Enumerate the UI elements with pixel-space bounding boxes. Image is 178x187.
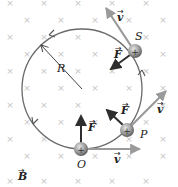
field-x-mark: × (6, 66, 14, 76)
field-x-mark: × (142, 32, 150, 42)
field-x-mark: × (91, 15, 99, 25)
field-x-mark: × (74, 100, 82, 110)
charge-sign-s: + (131, 47, 139, 57)
field-x-mark: × (91, 83, 99, 93)
vector-arrow-icon: → (89, 117, 96, 126)
vector-arrow-icon: → (115, 44, 122, 53)
field-x-mark: × (6, 176, 14, 186)
field-x-mark: × (40, 100, 48, 110)
field-x-mark: × (6, 134, 14, 144)
field-x-mark: × (159, 151, 167, 161)
field-x-mark: × (6, 0, 14, 8)
field-x-mark: × (125, 15, 133, 25)
magnetic-field-diagram: × × × × × × × × × × × × × × × × × × × × … (0, 0, 178, 187)
field-x-mark: × (57, 151, 65, 161)
field-x-mark: × (142, 117, 150, 127)
charge-sign-o: + (77, 145, 85, 155)
field-x-mark: × (23, 83, 31, 93)
field-x-mark: × (23, 49, 31, 59)
field-x-mark: × (6, 32, 14, 42)
field-x-mark: × (142, 66, 150, 76)
field-x-mark: × (74, 66, 82, 76)
field-x-mark: × (125, 83, 133, 93)
path-direction-arrow-left (32, 117, 38, 124)
field-x-mark: × (57, 49, 65, 59)
field-x-mark: × (91, 49, 99, 59)
field-x-mark: × (23, 151, 31, 161)
field-x-mark: × (40, 66, 48, 76)
magnetic-field-marks: × × × × × × × × × × × × × × × × × × × × … (6, 0, 167, 186)
vector-arrow-icon: → (18, 166, 25, 175)
field-x-mark: × (23, 15, 31, 25)
field-x-mark: × (91, 151, 99, 161)
field-x-mark: × (125, 151, 133, 161)
field-x-mark: × (57, 83, 65, 93)
field-x-mark: × (74, 176, 82, 186)
vector-arrow-icon: → (122, 100, 129, 109)
field-x-mark: × (6, 100, 14, 110)
field-x-mark: × (159, 49, 167, 59)
vector-arrow-icon: → (157, 99, 164, 108)
field-x-mark: × (159, 15, 167, 25)
field-x-mark: × (57, 15, 65, 25)
field-x-mark: × (40, 176, 48, 186)
particle-p-group: + P F → v → (107, 91, 166, 141)
vector-arrow-icon: → (114, 149, 121, 158)
particle-s-label: S (135, 30, 143, 43)
particle-o-label: O (77, 158, 86, 171)
field-x-mark: × (159, 134, 167, 144)
field-x-mark: × (108, 0, 116, 8)
field-x-mark: × (74, 32, 82, 42)
field-x-mark: × (40, 0, 48, 8)
particle-p-label: P (139, 128, 148, 141)
radius-label: R (56, 62, 65, 75)
field-x-mark: × (74, 0, 82, 8)
field-x-mark: × (108, 176, 116, 186)
field-x-mark: × (142, 176, 150, 186)
field-x-mark: × (57, 117, 65, 127)
charge-sign-p: + (123, 126, 131, 136)
vector-arrow-icon: → (117, 7, 124, 16)
field-x-mark: × (142, 0, 150, 8)
